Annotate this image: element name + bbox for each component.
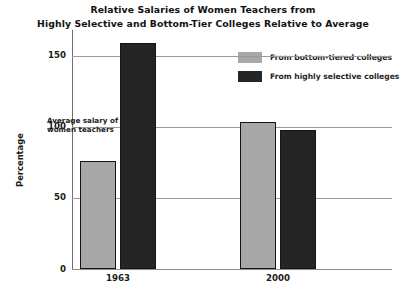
- annotation-line-2: women teachers: [47, 125, 143, 135]
- bar-2000-bottom-tiered: [240, 122, 276, 269]
- bar-2000-highly-selective: [280, 130, 316, 269]
- bar-1963-highly-selective: [120, 43, 156, 269]
- chart-title-line-2: Highly Selective and Bottom-Tier College…: [0, 17, 406, 31]
- y-tick-50: 50: [26, 193, 66, 202]
- plot-area: [72, 30, 392, 269]
- chart-title-line-1: Relative Salaries of Women Teachers from: [0, 3, 406, 17]
- average-salary-annotation: Average salary of women teachers: [47, 116, 143, 135]
- x-tick-2000: 2000: [238, 273, 318, 283]
- y-axis-title: Percentage: [15, 110, 25, 210]
- chart-title: Relative Salaries of Women Teachers from…: [0, 3, 406, 30]
- y-axis-tick-labels: 150 100 50 0: [22, 30, 66, 269]
- bar-chart: Relative Salaries of Women Teachers from…: [0, 0, 406, 285]
- x-tick-1963: 1963: [78, 273, 158, 283]
- y-tick-150: 150: [26, 51, 66, 60]
- y-tick-0: 0: [26, 265, 66, 274]
- y-axis-line: [72, 30, 73, 269]
- annotation-line-1: Average salary of: [47, 116, 143, 126]
- bar-1963-bottom-tiered: [80, 161, 116, 269]
- gridline-0: [72, 269, 392, 270]
